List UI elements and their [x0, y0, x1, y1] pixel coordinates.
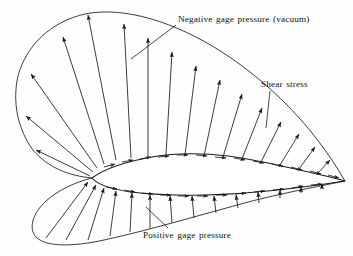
leader-lines	[131, 25, 270, 228]
leader-positive-pressure	[146, 207, 168, 228]
leader-negative-pressure	[131, 25, 176, 59]
airfoil-pressure-diagram	[0, 0, 353, 256]
figure-canvas: Negative gage pressure (vacuum) Shear st…	[0, 0, 353, 256]
upper-pressure-vectors	[26, 15, 330, 176]
leader-shear-stress	[266, 91, 270, 128]
label-negative-gage-pressure: Negative gage pressure (vacuum)	[178, 14, 309, 24]
label-shear-stress: Shear stress	[261, 79, 308, 89]
label-positive-gage-pressure: Positive gage pressure	[143, 230, 231, 240]
